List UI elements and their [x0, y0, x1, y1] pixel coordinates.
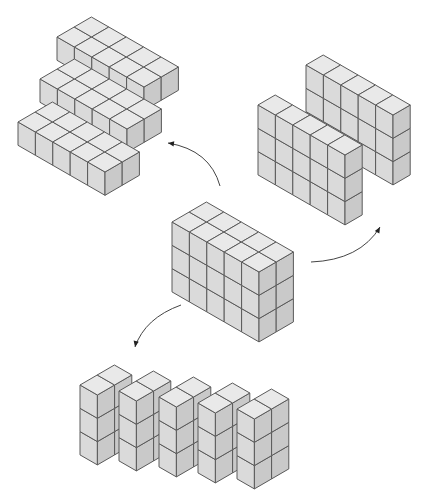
vertical-walls-group — [258, 55, 410, 225]
arrowhead-icon — [375, 227, 380, 234]
arrow-to-columns — [135, 305, 181, 347]
arrow-to-layers — [168, 143, 220, 186]
horizontal-layers-group — [18, 17, 178, 195]
center-block — [172, 202, 293, 342]
rectangular-prism-5x2x3 — [172, 202, 293, 342]
columns-group — [80, 365, 289, 489]
cube-decomposition-diagram — [0, 0, 428, 491]
column-5 — [237, 389, 289, 489]
diagram-canvas — [0, 0, 428, 491]
arrowhead-icon — [168, 141, 174, 146]
arrowhead-icon — [134, 341, 139, 347]
arrow-to-walls — [311, 227, 380, 262]
